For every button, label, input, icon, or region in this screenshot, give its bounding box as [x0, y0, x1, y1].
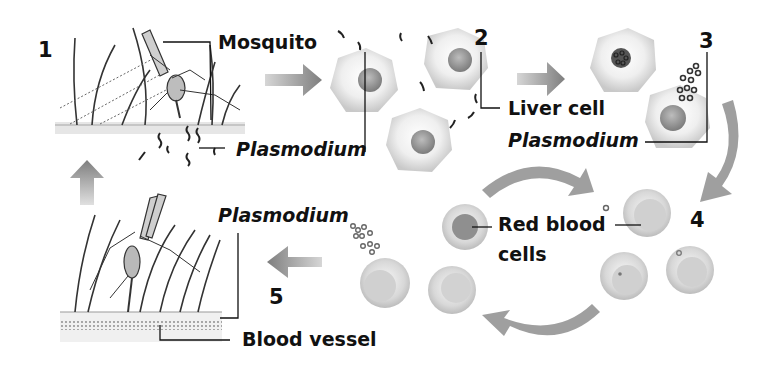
step-number-5: 5 [269, 287, 284, 308]
label-red-blood-cells-line1: Red blood [498, 215, 606, 234]
red-blood-cells-step4 [428, 189, 714, 314]
arrow-rbc-cycle-bottom [482, 304, 600, 336]
skin-panel-top [55, 28, 245, 166]
gametocyte-cell-step5 [351, 224, 410, 308]
label-liver-cell: Liver cell [508, 99, 605, 118]
step-number-1: 1 [38, 40, 53, 61]
plasmodium-gametocyte-leader-line [220, 233, 238, 318]
label-plasmodium-liver: Plasmodium [508, 131, 639, 150]
skin-panel-bottom [60, 194, 238, 342]
arrow-step2-to-step3 [517, 62, 565, 96]
step-number-3: 3 [699, 31, 714, 52]
label-mosquito: Mosquito [218, 33, 317, 52]
lifecycle-artwork [0, 0, 777, 371]
label-plasmodium-blood: Plasmodium [218, 206, 349, 225]
step-number-4: 4 [690, 210, 705, 231]
arrow-step1-to-step2 [265, 64, 322, 96]
mosquito-bottom [90, 194, 200, 312]
arrow-step5-to-mosquito [267, 246, 322, 278]
step-number-2: 2 [474, 28, 489, 49]
arrow-up-to-step1 [70, 160, 104, 205]
label-plasmodium-skin: Plasmodium [236, 140, 367, 159]
arrow-rbc-cycle-top [482, 166, 594, 198]
label-red-blood-cells-line2: cells [498, 245, 546, 264]
label-blood-vessel: Blood vessel [242, 330, 377, 349]
